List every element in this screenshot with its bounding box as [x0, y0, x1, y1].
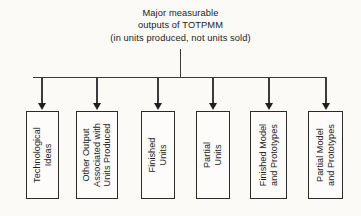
node-label-line: Other Output — [81, 123, 92, 187]
horizontal-bus-line — [33, 77, 325, 78]
node-box-other-output-associated-with-units-produced[interactable]: Other Output Associated with Units Produ… — [76, 111, 118, 199]
node-label-line: Units — [213, 142, 224, 168]
branch-arrow-finished-model — [264, 77, 275, 113]
node-box-partial-units[interactable]: Partial Units — [196, 111, 230, 199]
node-label-line: Units Produced — [102, 123, 113, 187]
node-box-technological-ideas[interactable]: Technological Ideas — [26, 111, 59, 199]
node-box-finished-units[interactable]: Finished Units — [141, 111, 175, 199]
branch-stem — [157, 77, 158, 105]
node-label: Finished Units — [147, 138, 168, 173]
branch-stem — [96, 77, 97, 105]
node-label: Partial Units — [202, 142, 223, 168]
branch-stem — [325, 77, 326, 105]
node-label-line: Ideas — [43, 127, 54, 183]
arrowhead-icon — [93, 103, 101, 110]
node-label-line: Finished Model — [258, 124, 269, 186]
title-line-1: Major measurable — [0, 7, 361, 19]
node-box-partial-model-and-prototypes[interactable]: Partial Model and Prototypes — [308, 111, 343, 199]
diagram-canvas: Major measurable outputs of TOTPMM (in u… — [0, 0, 361, 216]
branch-arrow-other-output — [92, 77, 103, 113]
node-box-finished-model-and-prototypes[interactable]: Finished Model and Prototypes — [250, 111, 287, 199]
branch-stem — [41, 77, 42, 105]
trunk-connector-line — [180, 49, 181, 78]
diagram-title: Major measurable outputs of TOTPMM (in u… — [0, 7, 361, 44]
node-label-line: Units — [158, 138, 169, 173]
node-label-line: Associated with — [92, 123, 103, 187]
node-label-line: Finished — [147, 138, 158, 173]
node-label: Technological Ideas — [32, 127, 53, 183]
node-label: Partial Model and Prototypes — [315, 124, 336, 186]
title-line-3: (in units produced, not units sold) — [0, 32, 361, 44]
branch-arrow-partial-units — [208, 77, 219, 113]
node-label-line: Partial — [202, 142, 213, 168]
title-line-2: outputs of TOTPMM — [0, 19, 361, 31]
branch-arrow-finished-units — [153, 77, 164, 113]
arrowhead-icon — [154, 103, 162, 110]
branch-arrow-technological-ideas — [37, 77, 48, 113]
node-label-line: Technological — [32, 127, 43, 183]
arrowhead-icon — [209, 103, 217, 110]
arrowhead-icon — [38, 103, 46, 110]
arrowhead-icon — [322, 103, 330, 110]
node-label: Finished Model and Prototypes — [258, 124, 279, 186]
node-label: Other Output Associated with Units Produ… — [81, 123, 113, 187]
branch-stem — [212, 77, 213, 105]
branch-stem — [268, 77, 269, 105]
arrowhead-icon — [265, 103, 273, 110]
node-label-line: Partial Model — [315, 124, 326, 186]
node-label-line: and Prototypes — [326, 124, 337, 186]
node-label-line: and Prototypes — [269, 124, 280, 186]
branch-arrow-partial-model — [321, 77, 332, 113]
